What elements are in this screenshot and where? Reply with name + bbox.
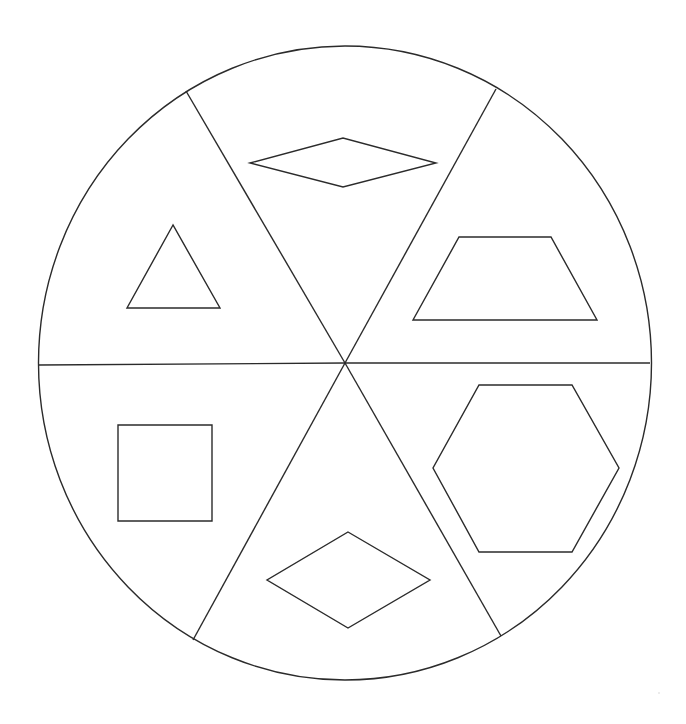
sector-shapes-diagram (0, 0, 686, 724)
stray-mark (658, 692, 660, 694)
